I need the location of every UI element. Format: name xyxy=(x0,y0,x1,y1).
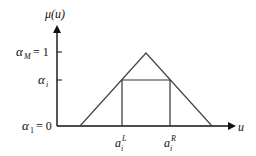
svg-text:i: i xyxy=(46,80,48,89)
membership-diagram: μ(u) u α M = 1 α i α 1 = 0 a i L a i R xyxy=(0,0,256,156)
svg-text:α: α xyxy=(22,118,30,133)
svg-text:α: α xyxy=(16,44,24,59)
label-alpha-i: α i xyxy=(38,72,48,89)
svg-text:i: i xyxy=(121,144,123,153)
svg-text:R: R xyxy=(170,134,176,143)
label-a-i-L: a i L xyxy=(115,134,127,153)
label-alpha-1: α 1 = 0 xyxy=(22,118,52,135)
label-a-i-R: a i R xyxy=(164,134,176,153)
svg-text:1: 1 xyxy=(30,126,34,135)
y-axis-label: μ(u) xyxy=(44,7,65,21)
svg-text:= 0: = 0 xyxy=(36,119,52,133)
svg-text:L: L xyxy=(121,134,127,143)
x-axis-label: u xyxy=(238,120,244,134)
triangle-membership xyxy=(80,53,212,126)
label-alpha-M: α M = 1 xyxy=(16,44,49,61)
svg-text:M: M xyxy=(23,52,32,61)
svg-text:i: i xyxy=(170,144,172,153)
svg-text:α: α xyxy=(38,72,46,87)
svg-text:= 1: = 1 xyxy=(33,45,49,59)
